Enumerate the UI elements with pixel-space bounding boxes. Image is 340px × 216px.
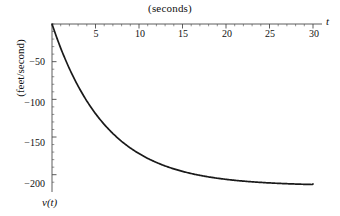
velocity-curve <box>52 24 313 185</box>
plot-area <box>0 0 340 216</box>
x-axis-group <box>52 24 322 29</box>
y-axis-ticks <box>52 24 57 182</box>
chart-figure: (seconds) (feet/second) t v(t) 5 10 15 2… <box>0 0 340 216</box>
x-axis-ticks <box>52 24 313 29</box>
y-axis-group <box>52 24 57 192</box>
